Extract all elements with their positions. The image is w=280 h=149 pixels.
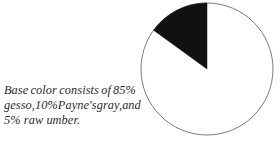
pie-chart <box>140 0 280 149</box>
caption-word: Base <box>4 83 28 98</box>
figure-container: Base color consists of 85% gesso, 10% Pa… <box>0 0 280 149</box>
caption-line-3: 5% raw umber. <box>4 113 136 128</box>
caption-word: gesso, <box>4 98 35 113</box>
caption-word: color <box>31 83 57 98</box>
caption-line-1: Base color consists of 85% <box>4 83 136 98</box>
figure-caption: Base color consists of 85% gesso, 10% Pa… <box>4 83 136 128</box>
caption-word: gray, <box>97 98 122 113</box>
caption-word: of <box>101 83 111 98</box>
caption-word: 85% <box>113 83 136 98</box>
caption-word: Payne's <box>58 98 97 113</box>
caption-word: and <box>122 98 141 113</box>
caption-word: 10% <box>35 98 58 113</box>
caption-word: consists <box>59 83 99 98</box>
caption-line-2: gesso, 10% Payne's gray, and <box>4 98 136 113</box>
